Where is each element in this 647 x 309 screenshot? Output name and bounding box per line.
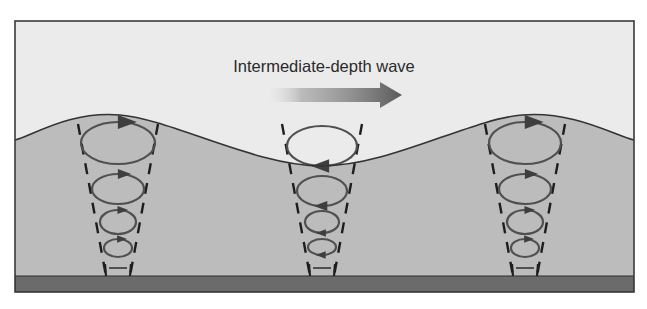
envelope-end-tick (537, 264, 538, 276)
seabed (15, 276, 634, 292)
envelope-end-tick (130, 264, 131, 276)
diagram-title: Intermediate-depth wave (233, 57, 415, 75)
envelope-end-tick (309, 264, 310, 276)
envelope-end-tick (334, 264, 335, 276)
envelope-end-tick (105, 264, 106, 276)
wave-orbit-diagram: Intermediate-depth wave (0, 0, 647, 309)
envelope-end-tick (512, 264, 513, 276)
